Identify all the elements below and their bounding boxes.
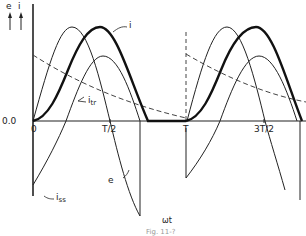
- i-curve: [33, 27, 186, 121]
- tick-t: T: [183, 125, 189, 134]
- label-i-tr: itr: [88, 96, 96, 107]
- label-i-ss: iss: [56, 193, 66, 204]
- label-i: i: [129, 21, 132, 30]
- tick-0: 0: [31, 125, 37, 134]
- tick-half-t: T/2: [102, 125, 116, 134]
- i-curve-2: [186, 27, 302, 121]
- x-axis-label: ωt: [162, 217, 172, 225]
- diagram: e i 0.0 0 T/2 T 3T/2 i itr iss e ωt Fig.…: [0, 0, 306, 236]
- y-label-e: e: [6, 2, 12, 11]
- y-label-i: i: [18, 2, 21, 11]
- label-e: e: [108, 176, 114, 185]
- i-ss-curve-2: [186, 56, 297, 178]
- origin-value: 0.0: [2, 117, 16, 126]
- tick-3half-t: 3T/2: [254, 125, 274, 134]
- up-arrow-icon: [8, 12, 23, 30]
- waveform-plot: [0, 0, 306, 236]
- i-tr-curve: [33, 55, 186, 118]
- caption: Fig. 11-?: [146, 229, 176, 236]
